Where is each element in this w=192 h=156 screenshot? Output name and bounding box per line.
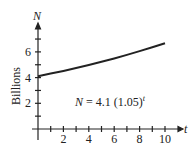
y-tick-label: 2: [25, 96, 31, 110]
x-tick-label: 10: [159, 132, 171, 146]
chart: 246810246 N t Billions N = 4.1 (1.05)t: [0, 0, 192, 156]
y-axis-symbol: N: [32, 9, 42, 23]
data-line: [38, 43, 165, 76]
y-axis-label: Billions: [9, 67, 23, 105]
x-tick-label: 8: [137, 132, 143, 146]
y-tick-label: 4: [25, 71, 31, 85]
x-tick-label: 2: [60, 132, 66, 146]
x-tick-label: 6: [111, 132, 117, 146]
equation-annotation: N = 4.1 (1.05)t: [74, 94, 146, 109]
y-tick-label: 6: [25, 45, 31, 59]
x-tick-label: 4: [86, 132, 92, 146]
x-axis-label: t: [184, 122, 188, 136]
axes: [32, 23, 183, 140]
